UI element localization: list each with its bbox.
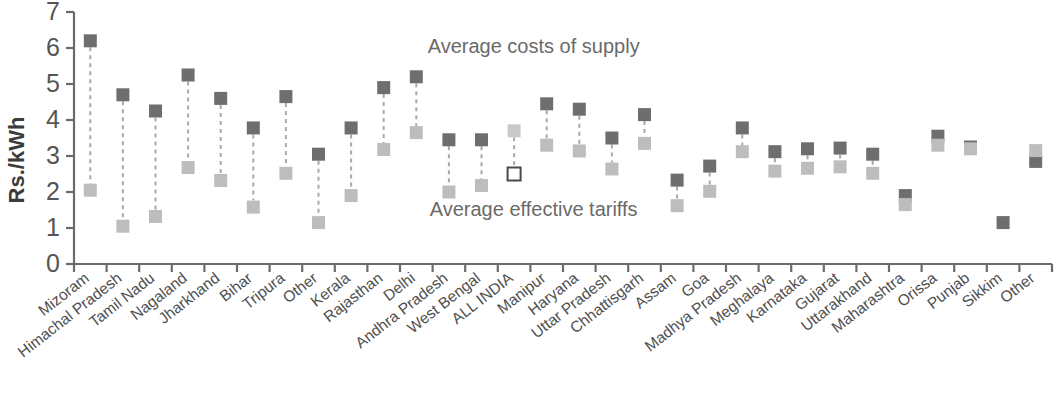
cost-marker xyxy=(866,148,879,161)
cost-marker xyxy=(834,142,847,155)
range-plot-svg: 01234567 Rs./kWh Average costs of supply… xyxy=(0,0,1060,395)
cost-marker xyxy=(116,88,129,101)
y-axis-title-text: Rs./kWh xyxy=(4,117,29,204)
tariff-marker xyxy=(931,139,944,152)
data-point-group xyxy=(279,90,292,180)
cost-marker xyxy=(638,108,651,121)
data-point-group xyxy=(84,34,97,196)
y-tick-label-2: 2 xyxy=(46,177,60,205)
tariff-marker xyxy=(312,216,325,229)
data-point-group xyxy=(671,174,684,213)
tariff-marker xyxy=(540,139,553,152)
cost-marker xyxy=(736,121,749,134)
category-label: Other xyxy=(997,269,1038,306)
cost-marker xyxy=(475,133,488,146)
data-point-group xyxy=(149,105,162,223)
chart-annotations: Average costs of supplyAverage effective… xyxy=(428,35,640,220)
cost-marker xyxy=(997,216,1010,229)
tariff-marker xyxy=(377,143,390,156)
cost-marker xyxy=(703,160,716,173)
data-point-group xyxy=(540,97,553,151)
data-point-group xyxy=(931,130,944,152)
cost-marker xyxy=(508,124,521,137)
tariff-marker xyxy=(149,210,162,223)
cost-marker xyxy=(84,34,97,47)
tariff-marker xyxy=(703,185,716,198)
data-point-group xyxy=(997,216,1010,229)
data-point-group xyxy=(605,132,618,176)
y-tick-label-0: 0 xyxy=(46,249,60,277)
data-point-group xyxy=(116,88,129,232)
y-tick-label-5: 5 xyxy=(46,69,60,97)
data-point-group xyxy=(247,121,260,213)
tariff-marker xyxy=(736,145,749,158)
data-point-group xyxy=(703,160,716,198)
tariff-marker xyxy=(84,184,97,197)
data-point-group xyxy=(899,189,912,211)
tariff-marker xyxy=(214,174,227,187)
data-point-group xyxy=(573,103,586,158)
data-point-group xyxy=(964,141,977,156)
tariff-marker xyxy=(442,186,455,199)
tariff-marker xyxy=(866,167,879,180)
cost-marker xyxy=(247,121,260,134)
data-point-group xyxy=(312,148,325,229)
cost-marker xyxy=(573,103,586,116)
tariff-marker xyxy=(1029,144,1042,157)
cost-marker xyxy=(540,97,553,110)
cost-marker xyxy=(410,70,423,83)
tariff-marker xyxy=(964,142,977,155)
tariff-marker xyxy=(605,162,618,175)
cost-marker xyxy=(377,81,390,94)
x-axis xyxy=(74,264,1052,272)
tariff-marker xyxy=(638,137,651,150)
data-point-group xyxy=(508,124,521,180)
data-point-group xyxy=(377,81,390,156)
y-axis-title: Rs./kWh xyxy=(4,117,29,204)
category-labels: MizoramHimachal PradeshTamil NaduNagalan… xyxy=(14,269,1037,361)
annotation-costs: Average costs of supply xyxy=(428,35,640,57)
tariff-marker xyxy=(508,168,521,181)
annotation-tariffs: Average effective tariffs xyxy=(430,198,638,220)
data-point-group xyxy=(1029,144,1042,168)
data-point-group xyxy=(345,121,358,202)
tariff-marker xyxy=(247,201,260,214)
cost-marker xyxy=(442,133,455,146)
tariff-marker xyxy=(899,198,912,211)
data-point-group xyxy=(638,108,651,150)
cost-marker xyxy=(182,69,195,82)
y-tick-label-1: 1 xyxy=(46,213,60,241)
data-point-group xyxy=(834,142,847,174)
cost-marker xyxy=(279,90,292,103)
y-tick-label-3: 3 xyxy=(46,141,60,169)
tariff-marker xyxy=(182,161,195,174)
cost-marker xyxy=(312,148,325,161)
data-point-group xyxy=(801,142,814,174)
tariff-marker xyxy=(116,220,129,233)
y-tick-label-7: 7 xyxy=(46,0,60,25)
cost-marker xyxy=(345,121,358,134)
data-point-group xyxy=(410,70,423,139)
cost-marker xyxy=(801,142,814,155)
data-point-group xyxy=(768,145,781,177)
data-point-group xyxy=(475,133,488,192)
data-point-group xyxy=(214,92,227,187)
tariff-marker xyxy=(279,167,292,180)
tariff-marker xyxy=(671,199,684,212)
tariff-marker xyxy=(834,160,847,173)
y-axis: 01234567 xyxy=(46,0,74,277)
data-point-group xyxy=(442,133,455,198)
cost-marker xyxy=(671,174,684,187)
data-point-group xyxy=(182,69,195,175)
y-tick-label-4: 4 xyxy=(46,105,60,133)
tariff-marker xyxy=(410,126,423,139)
cost-marker xyxy=(214,92,227,105)
cost-marker xyxy=(149,105,162,118)
cost-marker xyxy=(605,132,618,145)
tariff-marker xyxy=(768,165,781,178)
cost-marker xyxy=(768,145,781,158)
chart-figure: 01234567 Rs./kWh Average costs of supply… xyxy=(0,0,1060,395)
y-tick-label-6: 6 xyxy=(46,33,60,61)
tariff-marker xyxy=(573,144,586,157)
tariff-marker xyxy=(801,162,814,175)
